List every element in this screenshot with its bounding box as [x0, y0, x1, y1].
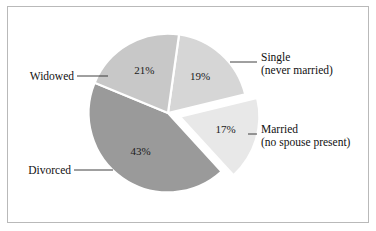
callout-label-single-line2: (never married) — [261, 64, 333, 77]
slice-value-single: 19% — [190, 70, 210, 82]
slice-value-widowed: 21% — [134, 64, 154, 76]
slice-value-married: 17% — [215, 123, 235, 135]
callout-label-single-line1: Single — [261, 51, 290, 64]
pie-chart-figure: 19% 17% 43% 21% Single (never married) M… — [0, 0, 376, 231]
callout-label-divorced: Divorced — [28, 164, 71, 176]
callout-label-married-line2: (no spouse present) — [261, 136, 351, 149]
callout-label-married-line1: Married — [261, 123, 298, 135]
callout-label-widowed: Widowed — [30, 70, 74, 82]
slice-value-divorced: 43% — [131, 145, 151, 157]
pie-chart-svg: 19% 17% 43% 21% Single (never married) M… — [0, 0, 376, 231]
